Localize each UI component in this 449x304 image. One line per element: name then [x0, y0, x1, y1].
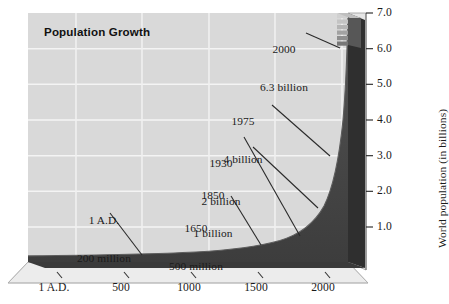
y-axis-title: World population (in billions) [436, 109, 449, 248]
y-tick-5: 5.0 [377, 77, 392, 90]
callout-1ad: 1 A.D. 200 million [62, 188, 146, 290]
callout-1ad-year: 1 A.D. [62, 214, 146, 227]
x-tick-2000: 2000 [300, 281, 346, 294]
page-title: Population Growth [44, 25, 150, 38]
y-tick-3: 3.0 [377, 149, 392, 162]
callout-1650-amount: 500 million [156, 260, 236, 273]
y-tick-7: 7.0 [377, 6, 392, 19]
y-tick-1: 1.0 [377, 220, 392, 233]
y-tick-2: 2.0 [377, 184, 392, 197]
callout-1975-year: 1975 [208, 115, 278, 128]
callout-1ad-amount: 200 million [62, 252, 146, 265]
callout-1650-year: 1650 [156, 222, 236, 235]
y-tick-4: 4.0 [377, 113, 392, 126]
x-tick-1500: 1500 [233, 281, 279, 294]
callout-1650: 1650 500 million [156, 196, 236, 298]
y-tick-6: 6.0 [377, 42, 392, 55]
y-axis-ticks [366, 13, 373, 227]
callout-2000-year: 2000 [246, 43, 322, 56]
